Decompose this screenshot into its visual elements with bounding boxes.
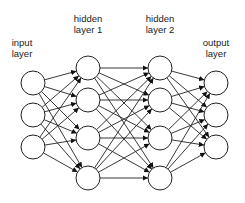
neuron-node: [204, 71, 228, 95]
neuron-node: [76, 56, 100, 80]
layer-label: output layer: [191, 37, 241, 59]
layer-label: hidden layer 1: [63, 13, 113, 35]
connection-arrow: [172, 71, 205, 80]
neuron-node: [148, 88, 172, 112]
neuron-node: [76, 88, 100, 112]
connection-arrow: [42, 76, 79, 107]
neuron-node: [148, 126, 172, 150]
neuron-node: [76, 126, 100, 150]
neuron-node: [21, 103, 45, 127]
layer-label: hidden layer 2: [135, 13, 185, 35]
connection-arrow: [166, 93, 210, 167]
neural-network-diagram: [0, 0, 245, 203]
connection-arrow: [172, 140, 204, 145]
neuron-node: [148, 166, 172, 190]
neuron-node: [148, 56, 172, 80]
neuron-node: [21, 135, 45, 159]
connection-arrow: [45, 71, 77, 80]
layer-label: input layer: [0, 37, 47, 59]
connection-arrow: [45, 140, 76, 145]
neuron-node: [76, 166, 100, 190]
connection-arrow: [170, 153, 205, 172]
neuron-node: [21, 71, 45, 95]
neuron-node: [204, 135, 228, 159]
neuron-node: [204, 103, 228, 127]
connection-arrow: [43, 153, 77, 172]
